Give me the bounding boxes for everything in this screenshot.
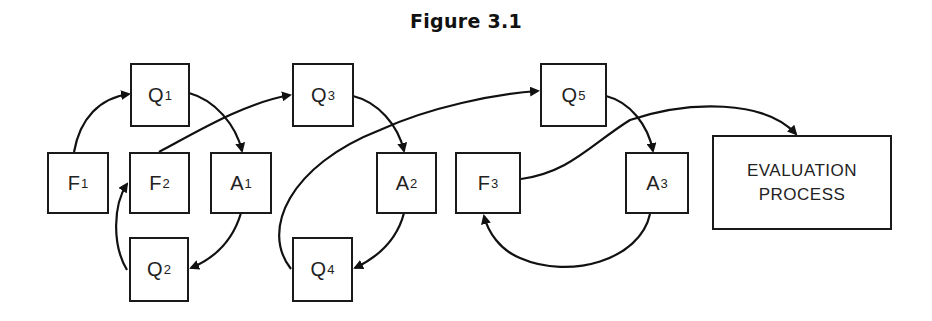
node-q5-subscript: 5 <box>578 88 585 103</box>
node-q3-subscript: 3 <box>328 88 335 103</box>
node-f3: F3 <box>455 152 521 214</box>
node-f2-label: F <box>149 172 161 195</box>
evaluation-label-line1: EVALUATION <box>747 159 857 183</box>
node-q3-label: Q <box>311 84 327 107</box>
node-evaluation-process: EVALUATION PROCESS <box>712 135 892 230</box>
node-f1-subscript: 1 <box>81 176 88 191</box>
node-q5-label: Q <box>562 84 578 107</box>
node-a1-subscript: 1 <box>245 176 252 191</box>
node-a2-label: A <box>396 172 409 195</box>
node-f1: F1 <box>47 152 109 214</box>
edge-a2-q4 <box>355 213 404 268</box>
edge-a3-f3 <box>484 214 650 267</box>
node-q1: Q1 <box>130 63 190 127</box>
node-f3-label: F <box>478 172 490 195</box>
node-a2: A2 <box>376 152 437 214</box>
node-q4-subscript: 4 <box>327 262 334 277</box>
node-f1-label: F <box>68 172 80 195</box>
evaluation-label-line2: PROCESS <box>759 183 846 207</box>
node-a3-subscript: 3 <box>661 176 668 191</box>
edge-q2-f2 <box>116 184 127 270</box>
node-f2-subscript: 2 <box>162 176 169 191</box>
node-q3: Q3 <box>292 63 354 127</box>
node-f2: F2 <box>129 152 190 214</box>
edge-q5-a3 <box>606 96 653 151</box>
edge-a1-q2 <box>191 213 241 268</box>
node-q5: Q5 <box>540 63 607 127</box>
node-q1-subscript: 1 <box>165 88 172 103</box>
node-a3: A3 <box>625 152 689 214</box>
node-a1: A1 <box>210 152 272 214</box>
node-q4: Q4 <box>292 237 353 302</box>
node-q2-subscript: 2 <box>164 262 171 277</box>
node-q4-label: Q <box>311 258 327 281</box>
edge-f1-q1 <box>74 94 129 152</box>
node-f3-subscript: 3 <box>491 176 498 191</box>
node-a1-label: A <box>230 172 243 195</box>
node-q2-label: Q <box>147 258 163 281</box>
node-q1-label: Q <box>148 84 164 107</box>
node-a3-label: A <box>646 172 659 195</box>
node-q2: Q2 <box>129 237 189 302</box>
node-a2-subscript: 2 <box>410 176 417 191</box>
